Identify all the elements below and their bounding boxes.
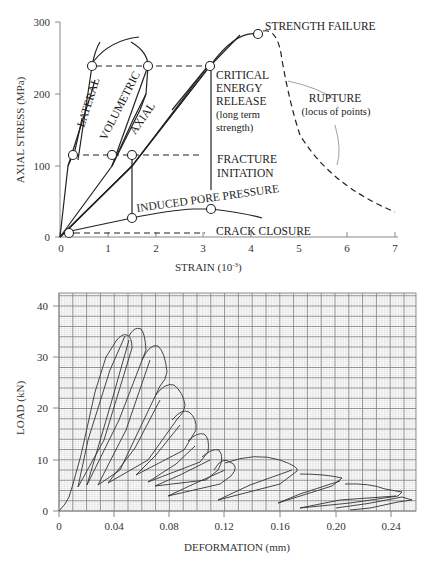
fracture-label-2: INITATION [217,167,274,179]
x-tick-label: 0 [58,242,64,254]
stress-strain-chart: 0 100 200 300 0 1 2 3 4 5 6 7 AXIAL STRE… [14,16,398,274]
y-tick-label: 200 [34,88,51,100]
lateral-critical-marker [88,62,97,71]
pore-pressure-critical-marker [207,205,216,214]
load-deformation-chart: 0 10 20 30 40 0 0.04 0.08 0.12 0.16 0.20… [14,293,416,554]
y-axis-title: LOAD (kN) [14,381,27,435]
x-tick-label: 7 [392,242,398,254]
y-tick-label: 40 [37,300,49,312]
x-axis-title: DEFORMATION (mm) [184,541,290,554]
x-tick-label: 4 [248,242,254,254]
y-tick-label: 100 [34,160,51,172]
critical-label-3: RELEASE [216,95,266,107]
x-tick-label: 0.16 [270,520,290,532]
x-tick-label: 0.08 [159,520,179,532]
y-axis-title: AXIAL STRESS (MPa) [14,76,27,183]
x-ticks: 0 0.04 0.08 0.12 0.16 0.20 0.24 [56,511,401,532]
critical-label-5: strength) [216,122,254,134]
crack-closure-marker [65,229,74,238]
strength-failure-marker [254,30,263,39]
rupture-dashed-curve [263,31,395,212]
fracture-label-1: FRACTURE [217,153,277,165]
critical-label-1: CRITICAL [216,69,269,81]
lateral-fracture-marker [69,151,78,160]
axial-tangent [210,35,240,66]
axial-critical-marker [206,62,215,71]
volumetric-fracture-marker [108,151,117,160]
critical-label-2: ENERGY [216,82,263,94]
x-tick-label: 0.12 [214,520,233,532]
y-tick-label: 0 [45,231,51,243]
critical-label-4: (long term [216,109,260,121]
pore-pressure-marker [128,214,137,223]
rupture-label-1: RUPTURE [309,92,361,104]
x-tick-label: 0.24 [381,520,401,532]
y-ticks: 0 10 20 30 40 [37,300,59,517]
x-tick-label: 0.04 [104,520,124,532]
crack-closure-label: CRACK CLOSURE [216,225,311,237]
y-tick-label: 20 [37,402,49,414]
x-axis-title: STRAIN (10-3) [175,261,242,274]
strength-failure-label: STRENGTH FAILURE [265,20,376,32]
rupture-label-2: (locus of points) [302,106,371,118]
y-tick-label: 0 [43,505,49,517]
figure: 0 100 200 300 0 1 2 3 4 5 6 7 AXIAL STRE… [0,0,434,567]
x-tick-label: 0 [56,520,62,532]
axial-fracture-marker [128,151,137,160]
y-ticks: 0 100 200 300 [34,16,61,243]
lateral-label: LATERAL [74,76,101,128]
volumetric-critical-marker [144,62,153,71]
rupture-pointer-lower [335,125,339,165]
x-tick-label: 3 [200,242,206,254]
x-tick-label: 1 [105,242,111,254]
x-tick-label: 6 [344,242,350,254]
x-tick-label: 0.20 [326,520,346,532]
y-tick-label: 30 [37,351,49,363]
axial-volumetric-tangent [172,66,208,110]
y-tick-label: 10 [37,454,49,466]
x-tick-label: 2 [153,242,159,254]
y-tick-label: 300 [34,16,51,28]
x-tick-label: 5 [296,242,302,254]
lateral-volumetric-arc [93,37,139,62]
